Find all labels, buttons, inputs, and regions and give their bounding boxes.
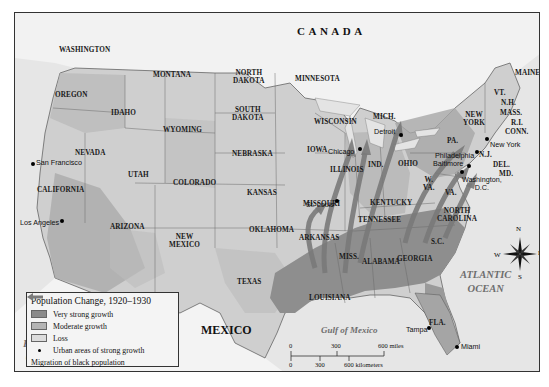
label-wisconsin: WISCONSIN (314, 118, 357, 126)
swatch-very-strong-icon (31, 310, 47, 318)
label-south-dakota: SOUTHDAKOTA (232, 106, 264, 122)
label-delaware: DEL. (493, 161, 510, 169)
label-california: CALIFORNIA (37, 186, 84, 194)
label-kentucky: KENTUCKY (370, 199, 412, 207)
city-dot-st-louis (335, 199, 339, 203)
label-florida: FLA. (429, 319, 446, 327)
city-dot-washington-dc (460, 170, 464, 174)
city-chicago: Chicago (328, 148, 354, 156)
label-idaho: IDAHO (111, 109, 136, 117)
scale-bar: 0 300 600 miles 0 300 600 kilometers (290, 341, 410, 371)
city-dot-baltimore (467, 164, 471, 168)
label-new-mexico: NEWMEXICO (169, 233, 200, 249)
legend-item-migration: Migration of black population (31, 357, 174, 369)
city-miami: Miami (461, 343, 480, 351)
scale-km-600: 600 kilometers (344, 361, 383, 368)
label-massachusetts: MASS. (500, 109, 522, 117)
label-louisiana: LOUISIANA (309, 294, 351, 302)
label-iowa: IOWA (307, 146, 327, 154)
label-maine: MAINE (515, 69, 540, 77)
scale-km-300: 300 (315, 361, 325, 368)
label-virginia: VA. (445, 189, 457, 197)
legend-title: Population Change, 1920–1930 (31, 295, 174, 307)
label-georgia: GEORGIA (397, 255, 432, 263)
map-legend: Population Change, 1920–1930 Very strong… (26, 292, 179, 367)
label-oregon: OREGON (55, 91, 88, 99)
swatch-moderate-icon (31, 322, 47, 330)
label-connecticut: CONN. (505, 128, 528, 136)
city-san-francisco: San Francisco (36, 159, 82, 167)
swatch-loss-icon (31, 334, 47, 342)
scale-miles-600: 600 miles (378, 342, 403, 349)
city-dot-detroit (399, 133, 403, 137)
label-tennessee: TENNESSEE (358, 216, 401, 224)
label-canada: CANADA (297, 25, 366, 37)
label-kansas: KANSAS (247, 189, 277, 197)
city-dot-tampa (427, 326, 431, 330)
label-montana: MONTANA (153, 71, 191, 79)
city-new-york: New York (490, 141, 520, 149)
label-rhode-island: R.I. (511, 119, 523, 127)
label-washington: WASHINGTON (59, 46, 110, 54)
label-oklahoma: OKLAHOMA (249, 226, 294, 234)
label-pennsylvania: PA. (447, 137, 458, 145)
label-gulf-of-mexico: Gulf of Mexico (321, 323, 378, 337)
label-minnesota: MINNESOTA (295, 75, 340, 83)
label-ohio: OHIO (398, 160, 418, 168)
label-mexico: MEXICO (201, 323, 252, 338)
legend-item-loss: Loss (31, 332, 174, 344)
city-baltimore: Baltimore (433, 160, 463, 168)
compass-rose-icon: N S E W (497, 231, 540, 277)
label-vermont: VT. (494, 89, 506, 97)
legend-item-urban: Urban areas of strong growth (31, 345, 174, 357)
label-michigan: MICH. (373, 113, 396, 121)
city-tampa: Tampa (406, 326, 428, 334)
map-frame: CANADA MEXICO PACIFICOCEAN ATLANTICOCEAN… (14, 12, 540, 372)
label-arkansas: ARKANSAS (299, 234, 339, 242)
label-north-dakota: NORTHDAKOTA (233, 69, 265, 85)
city-dot-miami (455, 345, 459, 349)
scale-miles-0: 0 (289, 342, 292, 349)
label-colorado: COLORADO (173, 179, 216, 187)
scale-miles-300: 300 (331, 342, 341, 349)
city-detroit: Detroit (374, 128, 395, 136)
city-los-angeles: Los Angeles (20, 219, 59, 227)
migration-arrow-icon (27, 293, 43, 301)
urban-dot-icon (31, 349, 47, 352)
label-nebraska: NEBRASKA (232, 150, 273, 158)
label-new-york: NEWYORK (463, 111, 485, 127)
label-wyoming: WYOMING (163, 126, 202, 134)
legend-item-moderate: Moderate growth (31, 320, 174, 332)
label-west-virginia: W.VA. (423, 176, 435, 192)
label-new-jersey: N.J. (479, 151, 492, 159)
label-alabama: ALABAMA (362, 258, 400, 266)
city-dot-new-york (485, 137, 489, 141)
label-new-hampshire: N.H. (501, 99, 516, 107)
label-south-carolina: S.C. (431, 238, 444, 246)
legend-item-very-strong: Very strong growth (31, 308, 174, 320)
label-mississippi: MISS. (339, 253, 359, 261)
city-dot-chicago (358, 147, 362, 151)
label-arizona: ARIZONA (110, 223, 145, 231)
label-nevada: NEVADA (75, 149, 105, 157)
label-texas: TEXAS (237, 278, 261, 286)
scale-km-0: 0 (289, 361, 292, 368)
label-north-carolina: NORTHCAROLINA (437, 207, 477, 223)
label-illinois: ILLINOIS (330, 166, 364, 174)
label-indiana: IND. (368, 161, 383, 169)
city-washington-dc: Washington,D.C. (462, 176, 502, 192)
city-st-louis: St. Louis (306, 201, 334, 209)
label-utah: UTAH (128, 171, 149, 179)
city-dot-san-francisco (31, 162, 35, 166)
city-dot-philadelphia (475, 150, 479, 154)
city-dot-los-angeles (60, 219, 64, 223)
